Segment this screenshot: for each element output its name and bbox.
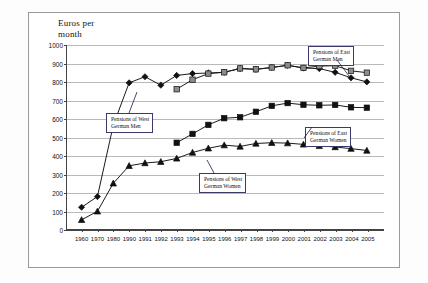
annotation-line2: German Women: [310, 137, 347, 144]
y-axis-tick-label: 400: [52, 153, 63, 160]
y-axis-tick-mark: [64, 138, 67, 139]
data-point-marker: [332, 69, 338, 75]
data-point-marker: [317, 103, 322, 108]
x-axis-tick-label: 1991: [139, 236, 152, 242]
x-axis-tick-label: 1980: [107, 236, 120, 242]
x-axis-tick-label: 2000: [282, 236, 295, 242]
data-point-marker: [348, 68, 353, 73]
y-axis-tick-mark: [64, 101, 67, 102]
data-point-marker: [364, 70, 369, 75]
data-point-marker: [206, 122, 211, 127]
x-axis-tick-mark: [304, 229, 305, 232]
y-axis-tick-mark: [64, 82, 67, 83]
y-axis-tick-label: 100: [52, 208, 63, 215]
x-axis-tick-mark: [352, 229, 353, 232]
annotation-line1: Pensions of West: [204, 176, 242, 183]
annotation-west-german-men: Pensions of West German Men: [106, 113, 153, 133]
y-axis-tick-mark: [64, 193, 67, 194]
x-axis-tick-mark: [272, 229, 273, 232]
x-axis-tick-label: 1994: [186, 236, 199, 242]
data-point-marker: [174, 140, 179, 145]
axis-title-line2: month: [58, 29, 178, 40]
data-point-marker: [78, 217, 84, 223]
annotation-west-german-women: Pensions of West German Women: [199, 173, 246, 193]
x-axis-tick-label: 2005: [361, 236, 374, 242]
y-axis-tick-mark: [64, 156, 67, 157]
y-axis-tick-label: 200: [52, 190, 63, 197]
data-point-marker: [348, 75, 354, 81]
x-axis-tick-mark: [161, 229, 162, 232]
data-point-marker: [364, 79, 370, 85]
x-axis-tick-mark: [209, 229, 210, 232]
x-axis-tick-mark: [368, 229, 369, 232]
x-axis-tick-label: 1970: [91, 236, 104, 242]
data-point-marker: [142, 74, 148, 80]
x-axis-tick-label: 2002: [313, 236, 326, 242]
x-axis-tick-mark: [82, 229, 83, 232]
y-axis-tick-label: 500: [52, 134, 63, 141]
data-point-marker: [301, 102, 306, 107]
data-point-marker: [253, 109, 258, 114]
x-axis-tick-mark: [145, 229, 146, 232]
data-point-marker: [94, 208, 100, 214]
data-point-marker: [78, 204, 84, 210]
x-axis-tick-mark: [320, 229, 321, 232]
y-axis-tick-mark: [64, 175, 67, 176]
x-axis-tick-label: 2001: [298, 236, 311, 242]
x-axis-tick-label: 1990: [123, 236, 136, 242]
data-point-marker: [348, 105, 353, 110]
data-point-marker: [285, 100, 290, 105]
data-point-marker: [269, 103, 274, 108]
y-axis-tick-label: 300: [52, 171, 63, 178]
x-axis-tick-mark: [129, 229, 130, 232]
x-axis-tick-mark: [257, 229, 258, 232]
data-point-marker: [222, 70, 227, 75]
x-axis-tick-label: 1960: [75, 236, 88, 242]
x-axis-tick-mark: [225, 229, 226, 232]
data-point-marker: [190, 77, 195, 82]
x-axis-tick-mark: [336, 229, 337, 232]
annotation-line2: German Men: [111, 123, 149, 130]
x-axis-tick-label: 2004: [345, 236, 358, 242]
annotation-east-german-women: Pensions of East German Women: [305, 127, 351, 147]
data-point-marker: [237, 66, 242, 71]
data-point-marker: [174, 72, 180, 78]
data-point-marker: [189, 70, 195, 76]
y-axis-tick-label: 900: [52, 60, 63, 67]
annotation-east-german-men: Pensions of East German Men: [308, 46, 354, 66]
x-axis-tick-mark: [193, 229, 194, 232]
data-point-marker: [332, 102, 337, 107]
data-point-marker: [222, 116, 227, 121]
x-axis-tick-mark: [98, 229, 99, 232]
data-point-marker: [174, 87, 179, 92]
annotation-line1: Pensions of East: [313, 49, 350, 56]
data-point-marker: [253, 67, 258, 72]
y-axis-tick-mark: [64, 45, 67, 46]
y-axis-tick-mark: [64, 64, 67, 65]
annotation-line1: Pensions of West: [111, 116, 149, 123]
data-point-marker: [173, 155, 179, 161]
x-axis-tick-label: 1999: [266, 236, 279, 242]
data-point-marker: [237, 115, 242, 120]
y-axis-tick-label: 600: [52, 116, 63, 123]
data-point-marker: [126, 80, 132, 86]
x-axis-tick-mark: [113, 229, 114, 232]
data-point-marker: [190, 131, 195, 136]
x-axis-tick-label: 1995: [202, 236, 215, 242]
x-axis-tick-label: 1998: [250, 236, 263, 242]
x-axis-tick-mark: [177, 229, 178, 232]
x-axis-tick-label: 1993: [170, 236, 183, 242]
y-axis-tick-label: 800: [52, 79, 63, 86]
annotation-line1: Pensions of East: [310, 130, 347, 137]
x-axis-tick-label: 2003: [329, 236, 342, 242]
x-axis-tick-mark: [288, 229, 289, 232]
data-point-marker: [285, 63, 290, 68]
data-point-marker: [94, 193, 100, 199]
y-axis-tick-mark: [64, 119, 67, 120]
data-point-marker: [364, 105, 369, 110]
data-point-marker: [301, 65, 306, 70]
chart-page: Euros per month 010020030040050060070080…: [0, 0, 428, 283]
axis-title-line1: Euros per: [58, 18, 178, 29]
y-axis-tick-label: 1000: [49, 42, 63, 49]
data-point-marker: [206, 71, 211, 76]
